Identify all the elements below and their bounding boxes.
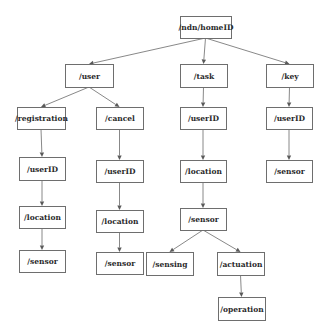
node-label: /sensor (188, 215, 219, 224)
node-label: /ndn/homeID (179, 23, 234, 32)
edge-cancel-to-cancel_userID (117, 129, 121, 160)
node-actuation: /actuation (218, 253, 265, 276)
node-reg_userID: /userID (20, 158, 66, 181)
arrowhead-icon (201, 102, 205, 107)
node-label: /location (185, 167, 222, 176)
arrowhead-icon (117, 248, 121, 253)
node-cancel_userID: /userID (97, 161, 144, 183)
arrowhead-icon (170, 248, 175, 252)
connector-line (204, 38, 206, 60)
edge-task_location-to-task_sensor (201, 182, 205, 208)
arrowhead-icon (287, 156, 291, 161)
node-label: /userID (27, 165, 59, 174)
edge-cancel_location-to-cancel_sensor (117, 232, 121, 252)
edge-reg_userID-to-reg_location (40, 180, 44, 206)
node-operation: /operation (219, 298, 266, 321)
node-task_location: /location (181, 161, 227, 183)
node-label: /userID (274, 114, 306, 123)
edge-user-to-registration (41, 87, 89, 107)
arrowhead-icon (201, 204, 205, 209)
edge-task-to-task_userID (201, 87, 205, 107)
node-key: /key (267, 65, 314, 88)
arrowhead-icon (239, 292, 243, 297)
node-reg_location: /location (20, 207, 66, 229)
node-label: /sensing (153, 260, 189, 269)
arrowhead-icon (115, 103, 120, 107)
node-cancel_sensor: /sensor (97, 253, 144, 275)
edge-key-to-key_userID (287, 87, 291, 107)
arrowhead-icon (40, 202, 44, 207)
arrowhead-icon (202, 59, 206, 64)
node-registration: /registration (15, 108, 68, 130)
node-root: /ndn/homeID (179, 17, 234, 39)
node-cancel_location: /location (97, 211, 144, 233)
node-key_sensor: /sensor (267, 161, 313, 183)
node-user: /user (66, 65, 114, 88)
connector-line (206, 38, 286, 63)
node-label: /location (24, 213, 61, 222)
arrowhead-icon (117, 206, 121, 211)
connector-line (93, 38, 205, 63)
arrowhead-icon (117, 156, 121, 161)
edge-task_sensor-to-actuation (203, 230, 241, 252)
edge-actuation-to-operation (239, 275, 243, 297)
node-task: /task (181, 65, 228, 88)
edge-root-to-key (206, 38, 290, 65)
node-label: /sensor (274, 167, 305, 176)
node-label: /registration (15, 114, 68, 123)
node-reg_sensor: /sensor (20, 251, 66, 273)
connector-line (89, 87, 116, 105)
node-label: /sensor (27, 257, 58, 266)
edge-task_userID-to-task_location (201, 129, 205, 160)
connector-line (173, 230, 203, 250)
nodes-layer: /ndn/homeID/user/task/key/registration/c… (15, 17, 313, 321)
edge-user-to-cancel (89, 87, 120, 107)
edge-registration-to-reg_userID (40, 129, 44, 157)
node-label: /key (281, 72, 299, 81)
connector-line (241, 275, 242, 293)
edge-root-to-task (202, 38, 206, 64)
node-sensing: /sensing (147, 253, 194, 276)
node-label: /task (194, 72, 215, 81)
node-label: /user (79, 72, 101, 81)
namespace-tree-diagram: /ndn/homeID/user/task/key/registration/c… (0, 0, 326, 335)
edge-key_userID-to-key_sensor (287, 129, 291, 160)
edge-task_sensor-to-sensing (170, 230, 204, 252)
node-task_sensor: /sensor (181, 209, 227, 231)
connector-line (203, 230, 237, 250)
edge-cancel_userID-to-cancel_location (117, 182, 121, 210)
node-key_userID: /userID (267, 108, 313, 130)
node-label: /actuation (220, 260, 263, 269)
edge-root-to-user (89, 38, 206, 65)
arrowhead-icon (40, 152, 44, 157)
arrowhead-icon (287, 102, 291, 107)
edge-reg_location-to-reg_sensor (40, 228, 44, 250)
node-label: /location (102, 217, 139, 226)
node-task_userID: /userID (181, 108, 227, 130)
node-label: /userID (104, 167, 136, 176)
arrowhead-icon (40, 246, 44, 251)
connector-line (45, 87, 89, 105)
node-label: /sensor (105, 259, 136, 268)
node-label: /cancel (105, 114, 135, 123)
node-label: /userID (188, 114, 220, 123)
node-cancel: /cancel (97, 108, 144, 130)
connector-line (41, 129, 42, 153)
node-label: /operation (220, 305, 264, 314)
arrowhead-icon (201, 156, 205, 161)
